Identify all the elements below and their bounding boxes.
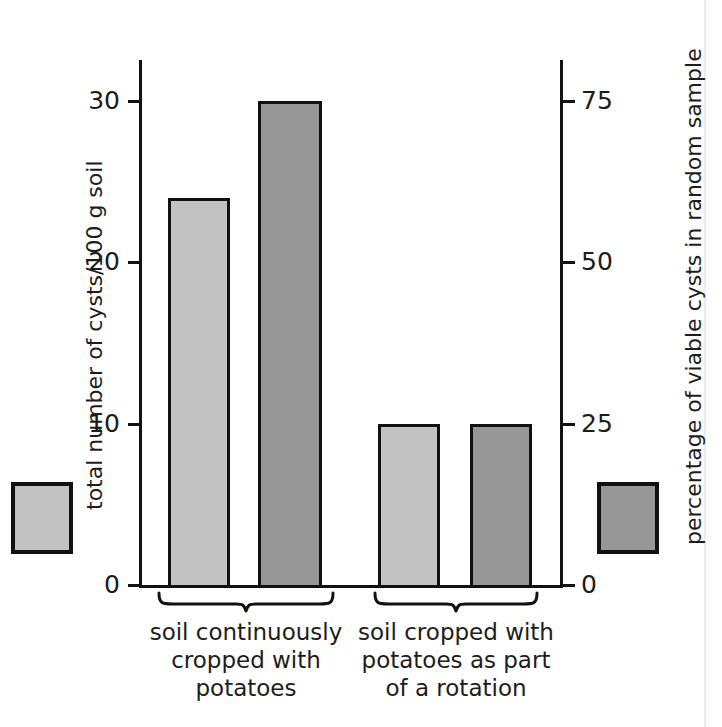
bar-chart-figure: 30 20 10 0 total number of cysts/100 g s… xyxy=(0,0,722,727)
left-axis-line xyxy=(139,60,142,588)
right-axis-title: percentage of viable cysts in random sam… xyxy=(683,48,705,545)
group2-brace xyxy=(372,590,540,614)
right-axis-line xyxy=(560,60,563,588)
left-tick-20 xyxy=(128,261,140,264)
right-tick-50 xyxy=(563,261,575,264)
right-tick-label-75: 75 xyxy=(581,88,641,113)
total-cysts-legend-swatch xyxy=(11,482,73,554)
left-tick-label-30: 30 xyxy=(68,88,120,113)
right-tick-label-50: 50 xyxy=(581,249,641,274)
bar-group2-total-cysts xyxy=(378,424,440,588)
group2-caption: soil cropped with potatoes as part of a … xyxy=(356,618,556,702)
bar-group1-total-cysts xyxy=(168,198,230,588)
right-tick-75 xyxy=(563,100,575,103)
percentage-viable-legend-swatch xyxy=(597,482,659,554)
group1-caption: soil continuously cropped with potatoes xyxy=(140,618,352,702)
bar-group1-percent-viable xyxy=(258,101,322,588)
bar-group2-percent-viable xyxy=(470,424,532,588)
right-tick-0 xyxy=(563,584,575,587)
right-tick-25 xyxy=(563,423,575,426)
left-axis-title: total number of cysts/100 g soil xyxy=(84,160,106,510)
right-tick-label-25: 25 xyxy=(581,411,641,436)
right-tick-label-0: 0 xyxy=(581,572,641,597)
left-tick-10 xyxy=(128,423,140,426)
group1-brace xyxy=(156,590,336,614)
left-tick-label-0: 0 xyxy=(68,572,120,597)
left-tick-30 xyxy=(128,100,140,103)
